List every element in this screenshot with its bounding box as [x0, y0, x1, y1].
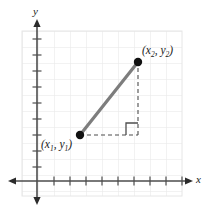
point-label-p2: (x2, y2) — [142, 45, 173, 57]
x-axis-right-arrow-icon — [185, 177, 193, 184]
y-axis-down-arrow-icon — [33, 197, 40, 205]
coordinate-plane-canvas — [0, 0, 209, 213]
p1-close-paren: ) — [68, 138, 72, 150]
p2-y-subscript: 2 — [166, 50, 170, 59]
p1-y-subscript: 1 — [65, 144, 69, 153]
p2-close-paren: ) — [169, 44, 173, 56]
p2-y-var: y — [160, 44, 165, 56]
point-label-p1: (x1, y1) — [41, 139, 72, 151]
endpoint-marker-p2 — [134, 58, 142, 66]
coordinate-plane-figure: (x2, y2) (x1, y1) y x — [0, 0, 209, 213]
y-axis-label: y — [33, 6, 38, 17]
y-axis-up-arrow-icon — [33, 19, 40, 27]
x-axis-left-arrow-icon — [8, 177, 16, 184]
p2-x-subscript: 2 — [151, 50, 155, 59]
x-axis-label: x — [196, 174, 201, 185]
endpoint-marker-p1 — [76, 131, 84, 139]
p1-x-subscript: 1 — [50, 144, 54, 153]
p1-y-var: y — [59, 138, 64, 150]
